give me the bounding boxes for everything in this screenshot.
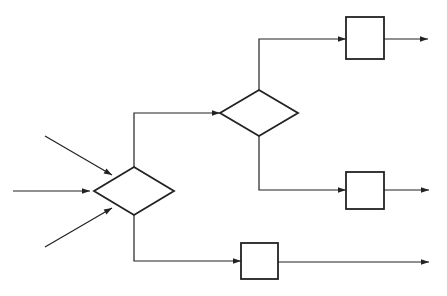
decision-2-diamond (220, 90, 298, 136)
process-2-box (346, 172, 384, 209)
process-1-box (346, 17, 384, 59)
connector-d2-to-p1 (259, 39, 346, 90)
connector-d1-to-d2 (134, 113, 220, 167)
input-bottom-arrow (45, 208, 112, 247)
decision-1-diamond (94, 167, 174, 215)
connector-d1-to-p3 (134, 215, 241, 261)
flowchart-diagram (0, 0, 447, 296)
connector-d2-to-p2 (259, 136, 346, 190)
process-3-box (241, 243, 278, 279)
input-top-arrow (45, 136, 112, 175)
